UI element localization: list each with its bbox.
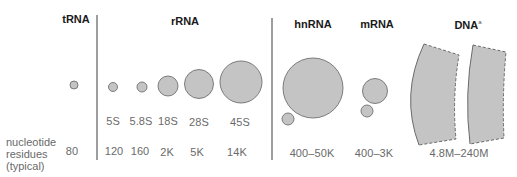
label-18s: 18S [158,115,178,127]
residues-mrna: 400–3K [355,147,394,159]
row-label-nucleotide-residues: nucleotide residues (typical) [6,136,56,172]
mrna-small-circle [361,105,373,117]
dna-segment-right [468,45,506,144]
rrna-28s-circle [185,70,214,99]
rrna-5s-circle [109,83,118,92]
residues-28s: 5K [190,146,204,158]
mrna-large-circle [363,79,388,104]
dna-footnote-marker: a [478,19,481,25]
residues-5-8s: 160 [131,145,150,157]
rrna-18s-circle [158,76,178,96]
residues-trna: 80 [66,145,78,157]
residues-hnrna: 400–50K [290,147,335,159]
hnrna-small-circle [282,113,294,125]
nucleic-acid-size-diagram: .c { fill: #c4c4c4; stroke: #707070; str… [0,0,517,177]
header-mrna: mRNA [360,18,394,30]
label-5s: 5S [106,115,120,127]
label-5-8s: 5.8S [129,115,152,127]
dna-segment-left [411,44,459,145]
header-dna: DNAa [454,19,481,31]
residues-dna: 4.8M–240M [430,147,489,159]
rrna-45s-circle [220,61,262,103]
header-trna: tRNA [62,13,90,25]
residues-5s: 120 [105,145,124,157]
residues-45s: 14K [227,146,247,158]
rrna-5-8s-circle [137,82,147,92]
hnrna-large-circle [283,58,343,118]
label-45s: 45S [230,116,250,128]
header-hnrna: hnRNA [294,18,331,30]
header-rrna: rRNA [171,15,199,27]
residues-18s: 2K [160,146,174,158]
label-28s: 28S [189,116,209,128]
trna-circle [70,81,78,89]
